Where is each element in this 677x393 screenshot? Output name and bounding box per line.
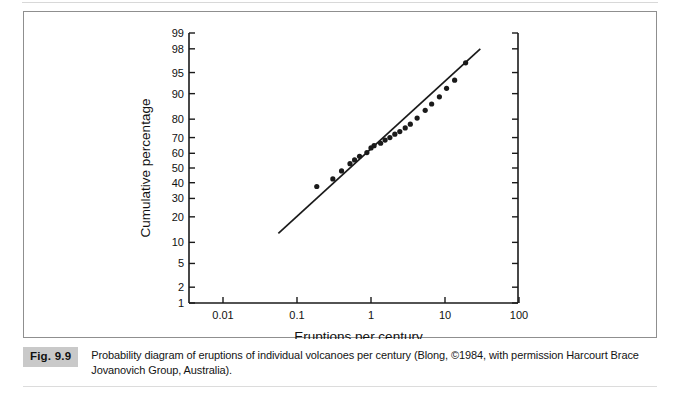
- x-axis-title: Eruptions per century: [294, 329, 423, 339]
- data-point: [392, 132, 397, 137]
- figure-box: 1251020304050607080909598990.010.1110100…: [23, 11, 657, 338]
- y-tick-label: 80: [172, 113, 184, 125]
- y-tick-label: 99: [172, 27, 184, 39]
- y-tick-label: 2: [178, 281, 184, 293]
- page-bottom-rule: [23, 386, 657, 387]
- x-axis-ticks: 0.010.1110100: [212, 297, 528, 321]
- x-tick-label: 0.1: [289, 309, 304, 321]
- y-tick-label: 60: [172, 147, 184, 159]
- data-point: [357, 154, 362, 159]
- figure-caption-row: Fig. 9.9 Probability diagram of eruption…: [23, 347, 657, 387]
- data-point: [403, 125, 408, 130]
- y-tick-label: 40: [172, 177, 184, 189]
- data-point: [382, 137, 387, 142]
- data-point: [423, 108, 428, 113]
- x-tick-label: 100: [510, 309, 528, 321]
- figure-caption-text: Probability diagram of eruptions of indi…: [78, 347, 657, 377]
- data-point: [339, 168, 344, 173]
- y-tick-label: 20: [172, 211, 184, 223]
- data-point: [371, 143, 376, 148]
- data-points: [314, 60, 468, 189]
- figure-number-badge: Fig. 9.9: [23, 347, 78, 367]
- data-point: [429, 101, 434, 106]
- data-point: [452, 78, 457, 83]
- data-point: [314, 184, 319, 189]
- data-point: [387, 135, 392, 140]
- data-point: [397, 129, 402, 134]
- data-point: [352, 157, 357, 162]
- y-tick-label: 1: [178, 297, 184, 309]
- data-point: [415, 116, 420, 121]
- y-axis-title: Cumulative percentage: [138, 99, 153, 238]
- data-point: [408, 122, 413, 127]
- page-top-rule: [22, 2, 658, 3]
- y-tick-label: 30: [172, 192, 184, 204]
- x-tick-label: 10: [439, 309, 451, 321]
- y-tick-label: 95: [172, 67, 184, 79]
- data-point: [444, 86, 449, 91]
- y-tick-label: 90: [172, 88, 184, 100]
- x-tick-label: 1: [368, 309, 374, 321]
- y-tick-label: 70: [172, 132, 184, 144]
- chart-svg: 1251020304050607080909598990.010.1110100…: [24, 12, 658, 339]
- data-point: [437, 94, 442, 99]
- y-axis-ticks-right: [512, 33, 518, 303]
- y-tick-label: 10: [172, 236, 184, 248]
- y-axis-ticks: 125102030405060708090959899: [172, 27, 195, 309]
- y-tick-label: 98: [172, 43, 184, 55]
- data-point: [347, 161, 352, 166]
- x-tick-label: 0.01: [212, 309, 233, 321]
- y-tick-label: 50: [172, 162, 184, 174]
- y-tick-label: 5: [178, 257, 184, 269]
- probability-plot: 1251020304050607080909598990.010.1110100…: [24, 12, 658, 339]
- page-root: 1251020304050607080909598990.010.1110100…: [0, 0, 677, 393]
- data-point: [463, 60, 468, 65]
- data-point: [378, 141, 383, 146]
- data-point: [330, 176, 335, 181]
- data-point: [364, 150, 369, 155]
